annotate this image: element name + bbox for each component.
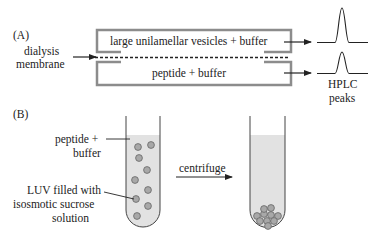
bottom-chamber-label: peptide + buffer	[152, 67, 226, 80]
membrane-label-line1: dialysis	[24, 45, 59, 58]
liquid-label-line1: peptide +	[55, 133, 98, 146]
hplc-label-line2: peaks	[329, 92, 355, 105]
luv-label-line3: solution	[52, 212, 89, 225]
panel-a-label: (A)	[13, 29, 29, 42]
hplc-peak-bottom	[317, 52, 368, 74]
luv-label-line2: isosmotic sucrose	[13, 198, 94, 211]
top-chamber-label: large unilamellar vesicles + buffer	[110, 35, 267, 48]
tube-before	[126, 116, 160, 227]
hplc-peak-top	[317, 8, 368, 43]
centrifuge-label: centrifuge	[179, 162, 226, 175]
liquid-label-line2: buffer	[73, 147, 101, 160]
membrane-label-line2: membrane	[16, 58, 65, 71]
panel-b-label: (B)	[13, 108, 28, 121]
tube-after	[250, 116, 285, 229]
luv-label-line1: LUV filled with	[27, 184, 101, 197]
hplc-label-line1: HPLC	[328, 78, 357, 91]
